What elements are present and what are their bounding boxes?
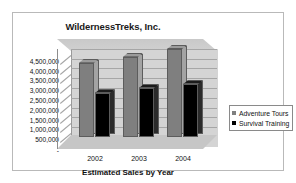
y-axis-tick-label: 1,000,000 [30, 126, 59, 133]
chart-title: WildernessTreks, Inc. [13, 21, 213, 32]
bar-adventure-tours-2002 [79, 63, 94, 137]
bar-survival-training-2003 [139, 88, 154, 137]
y-axis-tick-label: 3,500,000 [30, 77, 59, 84]
bar-adventure-tours-2003 [123, 57, 138, 137]
y-axis-tick-label: 4,500,000 [30, 58, 59, 65]
bar-side-face [110, 90, 115, 134]
bar-adventure-tours-2004 [167, 49, 182, 137]
y-axis-tick-label: 2,000,000 [30, 107, 59, 114]
x-axis-title: Estimated Sales by Year [43, 168, 213, 177]
gridline-side [60, 84, 71, 94]
gridline-side [60, 94, 71, 104]
gridline-side [60, 104, 71, 114]
legend-label: Adventure Tours [239, 110, 288, 117]
plot-area [57, 39, 217, 151]
bar-side-face [198, 81, 203, 134]
gridline [71, 49, 217, 50]
legend-label: Survival Training [239, 120, 289, 127]
bar-front-face [183, 84, 198, 137]
y-axis-tick-label: 3,000,000 [30, 87, 59, 94]
legend-swatch-icon [232, 121, 236, 125]
bar-front-face [123, 57, 138, 137]
y-axis-tick-label: 2,500,000 [30, 97, 59, 104]
legend-entry: Survival Training [232, 118, 289, 128]
bar-front-face [167, 49, 182, 137]
y-axis-line [57, 49, 58, 149]
gridline-side [60, 65, 71, 75]
bar-side-face [154, 85, 159, 134]
bar-survival-training-2002 [95, 93, 110, 137]
gridline-side [60, 75, 71, 85]
chart-legend: Adventure ToursSurvival Training [229, 105, 293, 131]
x-axis-tick-label: 2003 [119, 155, 159, 162]
plot-floor [57, 135, 217, 149]
gridline-side [60, 114, 71, 124]
x-axis-tick-label: 2004 [163, 155, 203, 162]
chart-frame: WildernessTreks, Inc. 4,500,0004,000,000… [12, 12, 284, 171]
bar-survival-training-2004 [183, 84, 198, 137]
legend-entry: Adventure Tours [232, 108, 289, 118]
bar-front-face [139, 88, 154, 137]
y-axis-tick-label: 4,000,000 [30, 68, 59, 75]
y-axis-tick-label: 500,000 [35, 136, 59, 143]
bar-front-face [95, 93, 110, 137]
y-axis-tick-label: 1,500,000 [30, 117, 59, 124]
gridline-side [60, 55, 71, 65]
legend-swatch-icon [232, 111, 236, 115]
bar-front-face [79, 63, 94, 137]
gridline-side [60, 124, 71, 134]
x-axis-tick-label: 2002 [75, 155, 115, 162]
